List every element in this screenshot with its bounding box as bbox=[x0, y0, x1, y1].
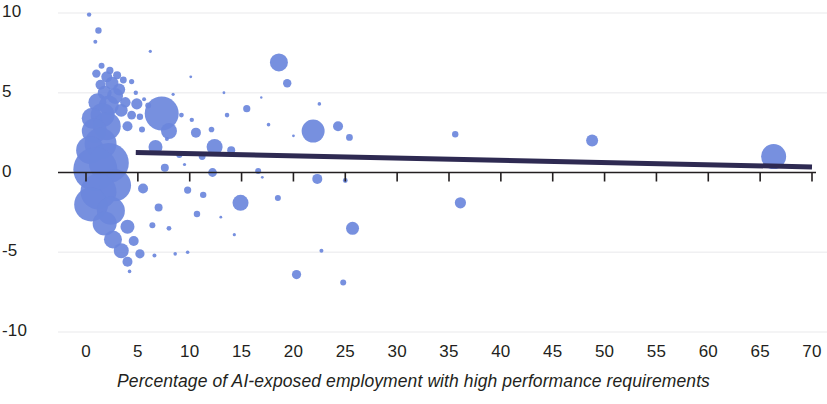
data-point bbox=[128, 270, 132, 274]
data-point bbox=[129, 79, 134, 84]
data-point bbox=[186, 250, 190, 254]
data-point bbox=[139, 126, 145, 132]
data-point bbox=[270, 53, 288, 71]
data-point bbox=[452, 131, 458, 137]
bubble-series bbox=[73, 12, 786, 285]
data-point bbox=[191, 128, 201, 138]
data-point bbox=[283, 79, 291, 87]
data-point bbox=[455, 197, 466, 208]
data-point bbox=[184, 186, 191, 193]
data-point bbox=[122, 257, 132, 267]
data-point bbox=[149, 50, 152, 53]
x-axis-tick-label: 15 bbox=[232, 342, 251, 362]
data-point bbox=[120, 220, 134, 234]
data-point bbox=[95, 27, 101, 33]
data-point bbox=[261, 176, 264, 179]
x-axis-tick-label: 45 bbox=[543, 342, 562, 362]
data-point bbox=[318, 102, 322, 106]
data-point bbox=[173, 252, 177, 256]
x-axis-tick-label: 20 bbox=[284, 342, 303, 362]
data-point bbox=[161, 123, 177, 139]
x-axis-tick-label: 50 bbox=[595, 342, 614, 362]
x-axis-tick-label: 40 bbox=[491, 342, 510, 362]
data-point bbox=[138, 183, 148, 193]
data-point bbox=[131, 98, 142, 109]
data-point bbox=[179, 113, 184, 118]
data-point bbox=[225, 113, 230, 118]
data-point bbox=[586, 135, 598, 147]
data-point bbox=[87, 12, 91, 16]
data-point bbox=[134, 91, 138, 95]
data-point bbox=[319, 249, 323, 253]
data-point bbox=[346, 222, 359, 235]
y-axis-tick-label: 5 bbox=[2, 82, 12, 102]
data-point bbox=[302, 120, 325, 143]
data-point bbox=[267, 123, 271, 127]
scatter-chart: 1050-5-10 0510152025303540455055606570 P… bbox=[0, 0, 827, 404]
data-point bbox=[233, 195, 249, 211]
y-axis-tick-label: 0 bbox=[2, 162, 12, 182]
y-axis-tick-label: 10 bbox=[2, 2, 21, 22]
data-point bbox=[99, 63, 105, 69]
data-point bbox=[114, 243, 129, 258]
data-point bbox=[149, 222, 155, 228]
data-point bbox=[142, 97, 146, 101]
data-point bbox=[137, 113, 143, 119]
x-axis-tick-label: 25 bbox=[336, 342, 355, 362]
x-axis-tick-label: 10 bbox=[180, 342, 199, 362]
x-axis-tick-label: 65 bbox=[750, 342, 769, 362]
data-point bbox=[183, 163, 186, 166]
data-point bbox=[92, 69, 100, 77]
data-point bbox=[292, 270, 301, 279]
data-point bbox=[120, 77, 127, 84]
data-point bbox=[219, 216, 222, 219]
data-point bbox=[333, 121, 343, 131]
data-point bbox=[340, 280, 346, 286]
data-point bbox=[115, 104, 128, 117]
data-point bbox=[233, 233, 236, 236]
data-point bbox=[260, 96, 262, 98]
data-point bbox=[127, 111, 136, 120]
x-axis-tick-label: 35 bbox=[439, 342, 458, 362]
data-point bbox=[152, 253, 156, 257]
data-point bbox=[223, 91, 226, 94]
trend-line bbox=[136, 153, 812, 167]
x-axis-tick-label: 0 bbox=[81, 342, 91, 362]
data-point bbox=[172, 93, 175, 96]
data-point bbox=[189, 75, 192, 78]
data-point bbox=[155, 204, 163, 212]
y-axis-tick-label: -10 bbox=[2, 321, 27, 341]
data-point bbox=[165, 137, 169, 141]
x-axis bbox=[58, 173, 816, 182]
data-point bbox=[161, 164, 169, 172]
x-axis-tick-label: 70 bbox=[802, 342, 821, 362]
y-axis-tick-label: -5 bbox=[2, 241, 18, 261]
data-point bbox=[346, 134, 353, 141]
data-point bbox=[167, 226, 172, 231]
data-point bbox=[194, 211, 200, 217]
trend-line-segment bbox=[136, 153, 812, 167]
x-axis-tick-label: 5 bbox=[133, 342, 143, 362]
x-axis-tick-label: 60 bbox=[699, 342, 718, 362]
data-point bbox=[93, 40, 97, 44]
x-axis-tick-label: 55 bbox=[647, 342, 666, 362]
data-point bbox=[312, 174, 322, 184]
x-axis-tick-label: 30 bbox=[387, 342, 406, 362]
data-point bbox=[200, 192, 206, 198]
data-point bbox=[209, 127, 215, 133]
data-point bbox=[292, 134, 295, 137]
data-point bbox=[190, 118, 194, 122]
data-point bbox=[275, 195, 281, 201]
x-axis-title: Percentage of AI-exposed employment with… bbox=[0, 371, 827, 392]
data-point bbox=[129, 236, 139, 246]
data-point bbox=[122, 121, 132, 131]
data-point bbox=[243, 105, 250, 112]
data-point bbox=[135, 249, 144, 258]
